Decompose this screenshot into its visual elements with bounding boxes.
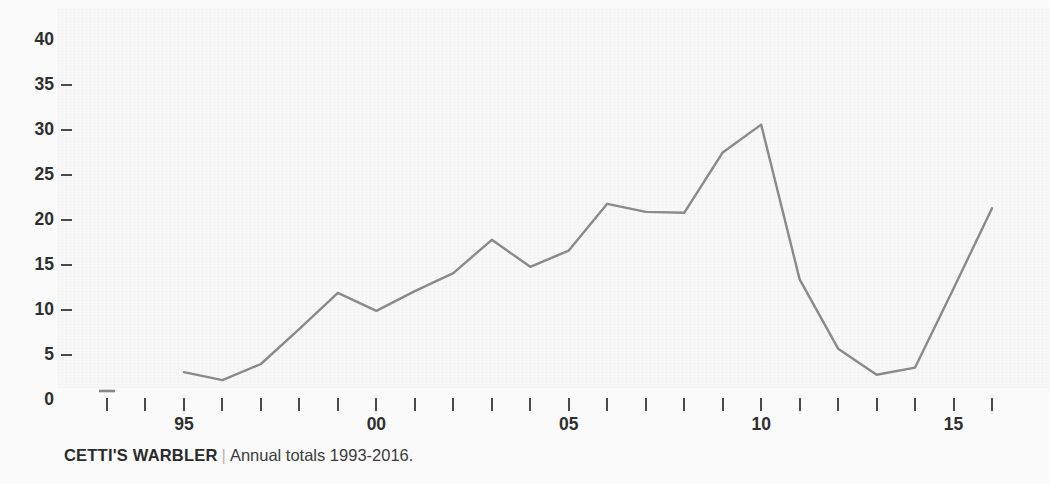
data-series-line — [184, 125, 992, 381]
caption-description: Annual totals 1993-2016. — [230, 446, 413, 464]
chart-page: 0510152025303540 9500051015 CETTI'S WARB… — [0, 0, 1050, 484]
caption-species-name: CETTI'S WARBLER — [64, 446, 218, 464]
chart-caption: CETTI'S WARBLER|Annual totals 1993-2016. — [64, 447, 413, 464]
chart-plot-area — [0, 0, 1050, 484]
scan-artifact — [470, 476, 590, 484]
caption-separator: | — [218, 446, 230, 464]
